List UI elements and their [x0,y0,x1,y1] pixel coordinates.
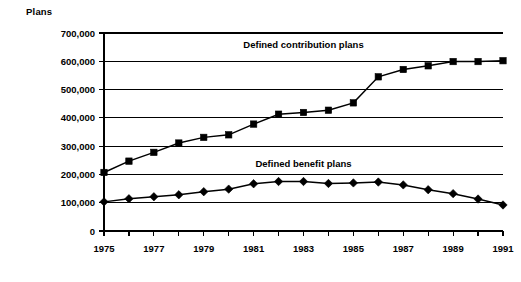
data-point-marker [125,195,133,203]
data-point-marker [225,132,231,138]
data-point-marker [274,177,282,185]
data-point-marker [201,134,207,140]
data-point-marker [101,169,107,175]
data-point-marker [475,58,481,64]
data-point-marker [450,58,456,64]
y-tick-label: 600,000 [61,56,95,67]
data-point-marker [349,179,357,187]
series-label: Defined contribution plans [243,39,363,50]
x-tick-label: 1985 [343,243,365,254]
data-point-marker [175,191,183,199]
x-tick-label: 1991 [492,243,514,254]
x-tick-label: 1987 [393,243,414,254]
series-line [104,61,503,173]
y-tick-label: 500,000 [61,84,95,95]
data-point-marker [250,121,256,127]
data-series [100,177,507,209]
data-point-marker [200,187,208,195]
data-point-marker [151,149,157,155]
x-tick-label: 1989 [443,243,464,254]
data-point-marker [399,181,407,189]
data-point-marker [375,74,381,80]
line-chart-plot: 0100,000200,000300,000400,000500,000600,… [0,0,521,282]
data-point-marker [350,100,356,106]
data-point-marker [299,177,307,185]
x-tick-label: 1977 [143,243,164,254]
data-point-marker [425,63,431,69]
chart-container: Plans 0100,000200,000300,000400,000500,0… [0,0,521,282]
data-point-marker [150,193,158,201]
data-point-marker [474,195,482,203]
data-point-marker [100,198,108,206]
x-axis-ticks: 197519771979198119831985198719891991 [93,231,514,254]
x-tick-label: 1983 [293,243,314,254]
y-tick-label: 100,000 [61,197,95,208]
data-series-group [100,58,507,210]
data-point-marker [324,179,332,187]
data-point-marker [374,178,382,186]
y-tick-label: 400,000 [61,112,95,123]
y-tick-label: 0 [90,226,95,237]
data-point-marker [400,66,406,72]
x-tick-label: 1979 [193,243,214,254]
data-point-marker [499,201,507,209]
y-tick-label: 200,000 [61,169,95,180]
x-tick-label: 1981 [243,243,265,254]
data-point-marker [300,109,306,115]
y-tick-label: 700,000 [61,28,95,39]
data-point-marker [449,189,457,197]
data-point-marker [275,111,281,117]
data-point-marker [424,186,432,194]
y-tick-label: 300,000 [61,141,95,152]
data-point-marker [325,107,331,113]
x-tick-label: 1975 [93,243,115,254]
data-point-marker [500,58,506,64]
data-point-marker [249,180,257,188]
series-annotations: Defined contribution plansDefined benefi… [243,39,363,170]
data-point-marker [224,185,232,193]
y-axis-ticks: 0100,000200,000300,000400,000500,000600,… [61,28,104,237]
data-point-marker [176,140,182,146]
series-label: Defined benefit plans [255,158,351,169]
data-point-marker [126,158,132,164]
